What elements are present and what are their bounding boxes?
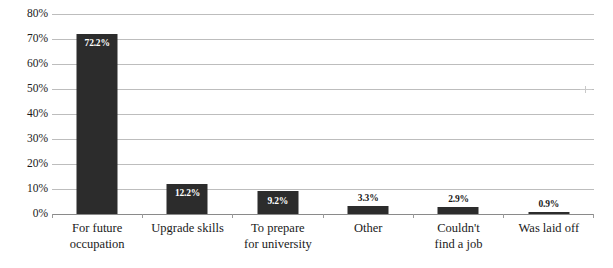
bar-chart: 80% 70% 60% 50% 40% 30% 20% 10% 0% 72.2%… [0, 0, 613, 268]
bar-value-label: 2.9% [448, 194, 469, 204]
x-label-upgrade-skills: Upgrade skills [142, 221, 232, 237]
bar-value-label: 3.3% [358, 193, 379, 203]
x-tick [503, 214, 504, 218]
x-label-was-laid-off: Was laid off [504, 221, 594, 237]
y-tick-label: 70% [6, 33, 48, 45]
x-label-couldnt-find-a-job: Couldn't find a job [413, 221, 503, 252]
bar-other[interactable] [348, 206, 389, 214]
x-tick [323, 214, 324, 218]
bars-layer: 72.2% 12.2% 9.2% 3.3% 2.9% 0.9% [52, 14, 594, 214]
x-label-line: occupation [52, 237, 142, 253]
x-tick [52, 214, 53, 218]
x-label-line: Couldn't [413, 221, 503, 237]
x-label-line: Other [323, 221, 413, 237]
bar-value-label: 12.2% [175, 188, 200, 198]
y-tick-label: 20% [6, 158, 48, 170]
x-label-line: Upgrade skills [142, 221, 232, 237]
bar-value-label: 9.2% [268, 196, 289, 206]
y-tick-label: 0% [6, 208, 48, 220]
bar-for-future-occupation[interactable] [77, 34, 118, 215]
x-axis-labels: For future occupation Upgrade skills To … [52, 221, 594, 265]
x-label-line: find a job [413, 237, 503, 253]
x-label-line: Was laid off [504, 221, 594, 237]
x-label-other: Other [323, 221, 413, 237]
bar-value-label: 72.2% [85, 38, 110, 48]
bar-value-label: 0.9% [539, 199, 560, 209]
x-tick [142, 214, 143, 218]
y-tick-label: 40% [6, 108, 48, 120]
x-label-to-prepare-for-university: To prepare for university [233, 221, 323, 252]
y-tick-label: 30% [6, 133, 48, 145]
bar-group-upgrade-skills[interactable]: 12.2% [142, 14, 232, 214]
y-tick-label: 80% [6, 8, 48, 20]
x-label-line: To prepare [233, 221, 323, 237]
bar-couldnt-find-a-job[interactable] [438, 207, 479, 214]
x-label-line: For future [52, 221, 142, 237]
x-tick [413, 214, 414, 218]
x-label-for-future-occupation: For future occupation [52, 221, 142, 252]
x-tick [232, 214, 233, 218]
y-tick-label: 50% [6, 83, 48, 95]
bar-group-couldnt-find-a-job[interactable]: 2.9% [413, 14, 503, 214]
x-tick [593, 214, 594, 218]
y-tick-label: 10% [6, 183, 48, 195]
bar-group-for-future-occupation[interactable]: 72.2% [52, 14, 142, 214]
y-tick-label: 60% [6, 58, 48, 70]
bar-group-other[interactable]: 3.3% [323, 14, 413, 214]
x-axis-ticks [52, 214, 594, 219]
x-label-line: for university [233, 237, 323, 253]
bar-group-was-laid-off[interactable]: 0.9% [504, 14, 594, 214]
bar-group-to-prepare-for-university[interactable]: 9.2% [233, 14, 323, 214]
